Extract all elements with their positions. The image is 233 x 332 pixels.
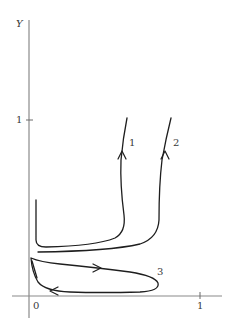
phase-portrait [0,0,233,332]
trajectory-label-3: 3 [157,267,163,277]
trajectory-label-2: 2 [173,138,179,148]
arrow-up-icon [161,151,169,159]
x-tick-label-1: 1 [197,301,203,311]
trajectory-1 [36,118,127,247]
trajectory-2 [38,118,171,252]
x-tick-label-0: 0 [33,301,39,311]
trajectory-3 [31,258,158,293]
trajectory-label-1: 1 [129,138,135,148]
y-tick-label-1: 1 [16,115,22,125]
y-axis-label: Y [16,19,23,29]
